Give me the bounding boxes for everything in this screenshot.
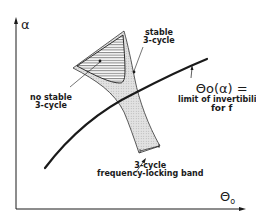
no-stable-3-cycle-label: no stable 3-cycle	[30, 94, 72, 111]
x-axis-label: Θo	[220, 190, 235, 204]
no-stable-dot-icon	[99, 60, 102, 63]
x-axis-arrow-icon	[239, 207, 246, 211]
x-axis-label-sub: o	[230, 197, 235, 206]
invertibility-curve-label: Θo(α) = limit of invertibility for f	[178, 82, 256, 113]
band-label-line2: frequency-locking band	[97, 170, 203, 178]
y-axis-arrow-icon	[14, 17, 18, 24]
x-axis	[16, 207, 246, 211]
stable-3-cycle-label: stable 3-cycle	[143, 29, 175, 46]
y-axis	[14, 17, 18, 209]
no-stable-label-line2: 3-cycle	[30, 102, 72, 110]
x-axis-label-main: Θ	[220, 189, 230, 204]
stable-label-line2: 3-cycle	[143, 37, 175, 45]
frequency-locking-band-label: 3-cycle frequency-locking band	[97, 162, 203, 179]
stable-dot-icon	[133, 71, 136, 74]
stable-leader-line	[134, 47, 143, 71]
curve-label-line3: for f	[178, 104, 256, 113]
y-axis-label: α	[21, 18, 30, 32]
no-stable-3-cycle-region	[77, 35, 125, 83]
curve-label-title: Θo(α) =	[178, 82, 256, 96]
